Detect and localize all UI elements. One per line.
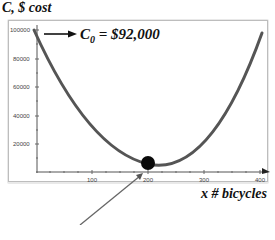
minimum-point-marker bbox=[141, 156, 155, 170]
svg-text:60000: 60000 bbox=[13, 84, 30, 90]
svg-text:20000: 20000 bbox=[13, 141, 30, 147]
x-tick-labels: 100 200 300 400 bbox=[87, 177, 266, 183]
y-tick-labels: 100000 80000 60000 40000 20000 bbox=[10, 27, 31, 147]
svg-text:100: 100 bbox=[87, 177, 98, 183]
x-axis-arrow-icon bbox=[262, 168, 270, 174]
x-axis-label: x # bicycles bbox=[201, 186, 267, 202]
svg-text:300: 300 bbox=[199, 177, 210, 183]
c0-arrow-icon bbox=[44, 31, 77, 38]
svg-text:100000: 100000 bbox=[10, 27, 31, 33]
svg-text:400: 400 bbox=[255, 177, 266, 183]
svg-text:80000: 80000 bbox=[13, 56, 30, 62]
c0-annotation: C0 = $92,000 bbox=[80, 26, 160, 45]
svg-text:40000: 40000 bbox=[13, 113, 30, 119]
svg-text:200: 200 bbox=[143, 177, 154, 183]
cost-curve bbox=[34, 30, 262, 165]
